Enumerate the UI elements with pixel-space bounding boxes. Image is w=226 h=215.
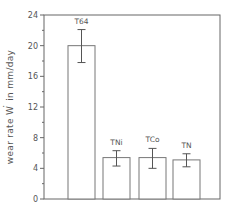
y-tick-label: 16 [28, 72, 38, 81]
bar-tco: TCo [139, 135, 166, 199]
bar-label: TNi [109, 138, 122, 147]
y-tick-label: 4 [33, 164, 38, 173]
y-tick-label: 24 [28, 11, 38, 20]
bar-rect [68, 46, 95, 199]
bar-t64: T64 [68, 17, 95, 199]
y-axis-ticks: 04812162024 [28, 11, 44, 204]
bars: T64TNiTCoTN [68, 17, 200, 199]
bar-label: TCo [145, 135, 160, 144]
wear-rate-bar-chart: 04812162024 T64TNiTCoTN wear rate W·in m… [0, 0, 226, 215]
bar-label: TN [180, 141, 191, 150]
bar-label: T64 [73, 17, 88, 26]
y-tick-label: 8 [33, 134, 38, 143]
bar-tn: TN [173, 141, 200, 199]
bar-tni: TNi [103, 138, 130, 199]
y-axis-label: wear rate W·in mm/day [0, 49, 15, 164]
y-tick-label: 20 [28, 42, 38, 51]
y-tick-label: 12 [28, 103, 38, 112]
y-tick-label: 0 [33, 195, 38, 204]
